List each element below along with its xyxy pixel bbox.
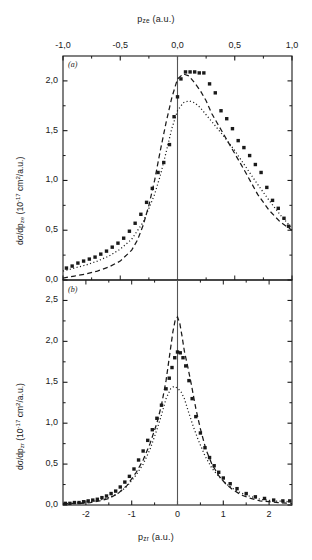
panel-a-y-axis-title: dσ/dpze (10-17 cm2/a.u.) bbox=[14, 157, 25, 245]
panel-a-tag: (a) bbox=[68, 60, 77, 69]
panel-b-series-0-marker bbox=[119, 485, 122, 488]
panel-a-series-0-marker bbox=[70, 264, 73, 267]
panel-a-series-0-marker bbox=[198, 71, 201, 74]
panel-a-series-0-marker bbox=[242, 146, 245, 149]
panel-a-series-0-marker bbox=[82, 259, 85, 262]
panel-b-series-0-marker bbox=[222, 476, 225, 479]
panel-a-series-0-marker bbox=[193, 70, 196, 73]
panel-b-series-0-marker bbox=[137, 458, 140, 461]
panel-a-series-0-marker bbox=[116, 241, 119, 244]
panel-a-xtick-label: 1,0 bbox=[275, 40, 309, 50]
panel-b-xtick-label: -2 bbox=[69, 509, 103, 519]
panel-a-series-0-marker bbox=[99, 252, 102, 255]
panel-a-series-0-marker bbox=[225, 117, 228, 120]
panel-a-series-0-marker bbox=[214, 91, 217, 94]
panel-a-series-0-marker bbox=[128, 230, 131, 233]
panel-b-series-0-marker bbox=[151, 428, 154, 431]
panel-b-series-0-marker bbox=[128, 475, 131, 478]
panel-b-series-0-marker bbox=[168, 376, 171, 379]
panel-b-ytick-label: 2,5 bbox=[29, 294, 58, 304]
panel-b-series-0-marker bbox=[170, 366, 173, 369]
panel-b-series-0-marker bbox=[272, 498, 275, 501]
panel-a-series-0-marker bbox=[265, 186, 268, 189]
panel-a-series-0-marker bbox=[111, 245, 114, 248]
panel-a-series-0-marker bbox=[202, 71, 205, 74]
panel-a-ytick-label: 0,0 bbox=[29, 274, 58, 284]
panel-b-bottom-axis-title: pzr (a.u.) bbox=[0, 532, 312, 542]
panel-a-ytick-label: 0,5 bbox=[29, 224, 58, 234]
panel-a-series-0-marker bbox=[133, 222, 136, 225]
panel-a-series-0-marker bbox=[188, 70, 191, 73]
panel-b-series-0-marker bbox=[105, 494, 108, 497]
panel-a-ytick-label: 2,0 bbox=[29, 75, 58, 85]
panel-b-series-0-marker bbox=[217, 471, 220, 474]
panel-b-series-0-marker bbox=[173, 356, 176, 359]
panel-b-xtick-label: 1 bbox=[206, 509, 240, 519]
figure-container: pze (a.u.) pzr (a.u.) dσ/dpze (10-17 cm2… bbox=[0, 0, 312, 560]
panel-a-series-0-marker bbox=[139, 213, 142, 216]
panel-b-series-0-marker bbox=[235, 487, 238, 490]
panel-b-ytick-label: 0,0 bbox=[29, 499, 58, 509]
panel-a-top-axis-title: pze (a.u.) bbox=[0, 14, 312, 24]
panel-b-series-0-marker bbox=[132, 467, 135, 470]
panel-b-series-0-marker bbox=[141, 449, 144, 452]
panel-b-ytick-label: 2,0 bbox=[29, 335, 58, 345]
panel-b-series-0-marker bbox=[181, 356, 184, 359]
panel-a-series-0-marker bbox=[236, 139, 239, 142]
panel-a-series-0-marker bbox=[122, 236, 125, 239]
panel-b-ytick-label: 1,5 bbox=[29, 376, 58, 386]
panel-a-series-0-marker bbox=[259, 171, 262, 174]
panel-a-series-0-marker bbox=[277, 207, 280, 210]
panel-b-y-axis-title: dσ/dpzr (10-17 cm2/a.u.) bbox=[14, 383, 25, 470]
panel-a-series-0-marker bbox=[93, 255, 96, 258]
panel-b-series-0-marker bbox=[123, 480, 126, 483]
panel-b-series-0-marker bbox=[179, 351, 182, 354]
panel-a-ytick-label: 1,0 bbox=[29, 174, 58, 184]
panel-b-ytick-label: 1,0 bbox=[29, 417, 58, 427]
panel-a-series-0-marker bbox=[254, 163, 257, 166]
panel-a-series-0-marker bbox=[176, 95, 179, 98]
panel-a-series-0-marker bbox=[65, 266, 68, 269]
panel-b-series-0-marker bbox=[228, 482, 231, 485]
panel-a-xtick-label: -0,5 bbox=[103, 40, 137, 50]
panel-a-xtick-label: -1,0 bbox=[46, 40, 80, 50]
panel-b-xtick-label: 2 bbox=[252, 509, 286, 519]
panel-a-series-0-marker bbox=[208, 82, 211, 85]
panel-a-xtick-label: 0,0 bbox=[161, 40, 195, 50]
panel-a-series-0-marker bbox=[231, 127, 234, 130]
panel-b-series-0-marker bbox=[109, 492, 112, 495]
panel-b-tag: (b) bbox=[68, 285, 77, 294]
panel-b-series-0-marker bbox=[114, 489, 117, 492]
panel-b-series-0-marker bbox=[100, 496, 103, 499]
panel-b-xtick-label: -1 bbox=[115, 509, 149, 519]
panel-a-ytick-label: 1,5 bbox=[29, 125, 58, 135]
panel-a-series-0-marker bbox=[184, 70, 187, 73]
panel-a-series-0-marker bbox=[105, 249, 108, 252]
panel-a-series-0-marker bbox=[219, 109, 222, 112]
panel-a-series-0-marker bbox=[76, 261, 79, 264]
panel-a-series-0-marker bbox=[88, 257, 91, 260]
panel-a-series-0-marker bbox=[271, 199, 274, 202]
panel-a-series-0-marker bbox=[145, 201, 148, 204]
panel-b-ytick-label: 0,5 bbox=[29, 458, 58, 468]
panel-a-plot bbox=[63, 56, 292, 280]
panel-a-series-0-marker bbox=[248, 154, 251, 157]
panel-b-series-0-marker bbox=[146, 439, 149, 442]
panel-b-plot bbox=[63, 280, 292, 505]
panel-a-xtick-label: 0,5 bbox=[218, 40, 252, 50]
panel-b-xtick-label: 0 bbox=[161, 509, 195, 519]
